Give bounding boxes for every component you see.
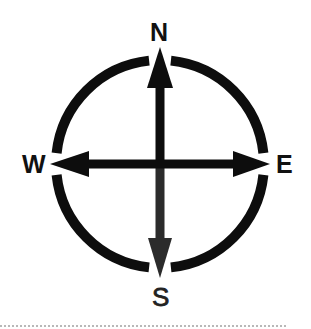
- south-arrow: [148, 166, 172, 278]
- north-label: N: [150, 20, 168, 45]
- east-label: E: [276, 152, 293, 177]
- south-arrow-shaft: [156, 166, 165, 240]
- north-arrow: [147, 47, 173, 166]
- west-arrowhead-icon: [50, 151, 89, 177]
- bottom-dotted-divider: [0, 325, 286, 327]
- east-west-arrow-shaft: [86, 160, 236, 169]
- ring-arc-southeast: [171, 175, 264, 268]
- north-arrow-shaft: [156, 86, 165, 166]
- west-label: W: [22, 152, 46, 177]
- south-arrowhead-icon: [148, 238, 172, 278]
- ring-arc-northeast: [171, 61, 264, 154]
- ring-arc-southwest: [57, 175, 150, 268]
- south-label: S: [152, 284, 169, 310]
- east-arrowhead-icon: [233, 151, 270, 177]
- compass-rose-graphic: [0, 0, 311, 329]
- ring-arc-northwest: [57, 61, 150, 154]
- north-arrowhead-icon: [147, 47, 173, 88]
